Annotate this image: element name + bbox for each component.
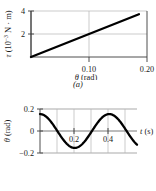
y-axis-unit-b: (rad) <box>3 120 12 139</box>
data-line-torque <box>31 14 139 57</box>
ytick-label-0: 0 <box>30 127 34 136</box>
panel-a: 4 2 0.10 0.20 θ (rad) τ (10−3 N · m) (a) <box>0 0 156 96</box>
ytick-label-02: 0.2 <box>24 105 34 114</box>
chart-a: 4 2 0.10 0.20 θ (rad) τ (10−3 N · m) <box>0 0 156 80</box>
ytick-label-2: 2 <box>21 30 25 39</box>
y-axis-title-a: τ (10−3 N · m) <box>3 10 13 57</box>
chart-b: 0.2 0 −0.2 0.2 0.4 t (s) θ (rad) <box>0 96 156 176</box>
panel-b: 0.2 0 −0.2 0.2 0.4 t (s) θ (rad) (b) <box>0 96 156 191</box>
figure-container: 4 2 0.10 0.20 θ (rad) τ (10−3 N · m) (a) <box>0 0 156 191</box>
ytick-label-4: 4 <box>21 7 25 16</box>
ytick-label-neg02: −0.2 <box>19 149 34 158</box>
x-axis-unit-b: (s) <box>142 127 153 136</box>
y-axis-open-a: (10 <box>4 41 13 54</box>
x-ticks-a <box>89 57 147 62</box>
caption-a: (a) <box>0 79 156 89</box>
xtick-label-04: 0.4 <box>103 135 113 144</box>
xtick-label-02: 0.2 <box>69 135 79 144</box>
y-axis-title-b: θ (rad) <box>3 120 12 143</box>
xtick-label-020: 0.20 <box>140 65 154 74</box>
y-axis-close-a: N · m) <box>4 10 13 35</box>
x-axis-title-b: t (s) <box>140 127 153 136</box>
